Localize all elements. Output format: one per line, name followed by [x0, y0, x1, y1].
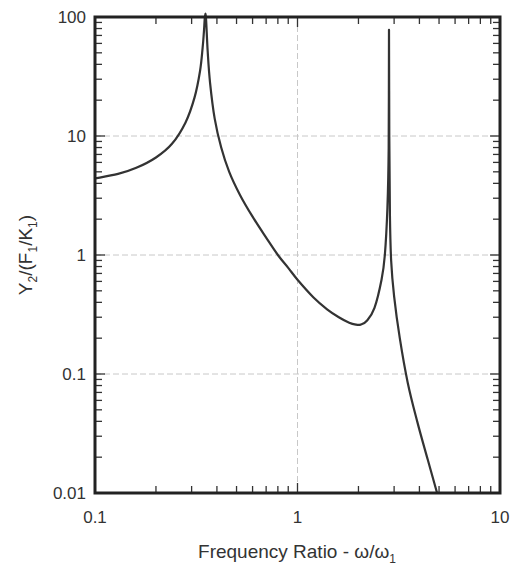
y-axis-title: Y2/(F1/K1) — [15, 215, 40, 295]
y-tick-label: 100 — [58, 8, 86, 27]
x-axis-title: Frequency Ratio - ω/ω1 — [198, 541, 396, 566]
y-tick-label: 10 — [67, 127, 86, 146]
y-tick-label: 0.01 — [53, 484, 86, 503]
x-tick-labels: 0.1110 — [83, 508, 509, 527]
x-axis-title-main: Frequency Ratio - ω/ω — [198, 541, 389, 562]
chart: 0.1110 0.010.1110100 Frequency Ratio - ω… — [0, 0, 517, 570]
gridlines — [95, 17, 500, 493]
x-axis-title-subscript: 1 — [389, 552, 396, 566]
y-tick-labels: 0.010.1110100 — [53, 8, 86, 503]
y-tick-label: 1 — [77, 246, 86, 265]
y-tick-label: 0.1 — [62, 365, 86, 384]
response-curve — [95, 14, 437, 493]
x-tick-label: 0.1 — [83, 508, 107, 527]
x-tick-label: 10 — [491, 508, 510, 527]
x-tick-label: 1 — [293, 508, 302, 527]
